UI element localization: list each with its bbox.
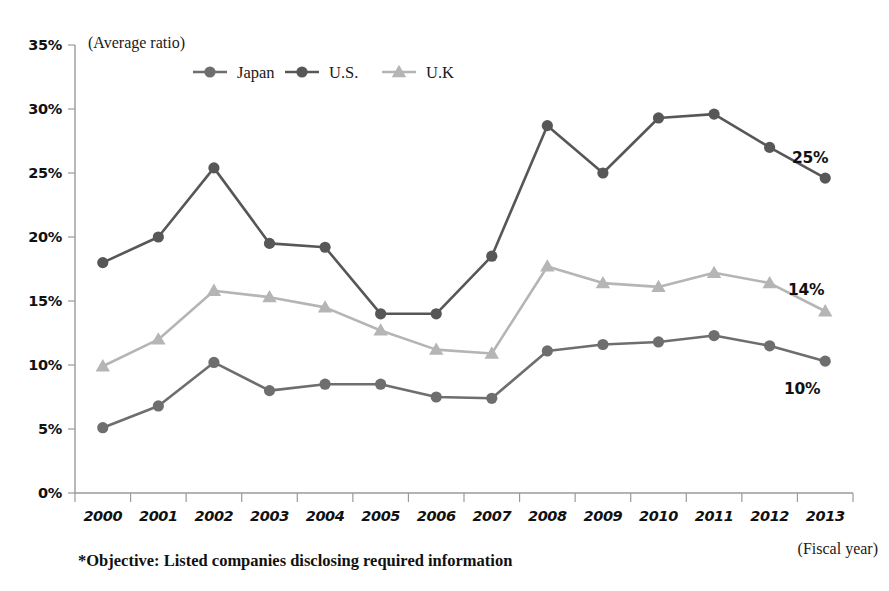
data-point-marker	[375, 379, 386, 390]
y-tick-label: 10%	[28, 357, 63, 373]
x-axis-ticks: 2000200120022003200420052006200720082009…	[75, 493, 853, 524]
data-point-marker	[431, 308, 442, 319]
x-tick-label: 2013	[806, 508, 845, 524]
data-point-marker	[653, 112, 664, 123]
data-point-marker	[264, 385, 275, 396]
end-value-label: 14%	[788, 281, 825, 299]
legend-entry-u-k[interactable]: U.K	[382, 63, 454, 82]
data-point-marker	[764, 142, 775, 153]
data-point-marker	[764, 340, 775, 351]
series-layer	[96, 109, 833, 434]
data-point-marker	[597, 339, 608, 350]
data-point-marker	[540, 259, 554, 271]
y-tick-label: 30%	[28, 101, 63, 117]
y-tick-label: 5%	[38, 421, 63, 437]
x-tick-label: 2011	[695, 508, 734, 524]
data-point-marker	[708, 330, 719, 341]
data-point-marker	[820, 173, 831, 184]
y-tick-label: 20%	[28, 229, 63, 245]
line-chart: 0%5%10%15%20%25%30%35% 20002001200220032…	[0, 0, 889, 591]
x-tick-label: 2012	[750, 508, 789, 524]
data-point-marker	[708, 109, 719, 120]
y-tick-label: 35%	[28, 37, 63, 53]
x-tick-label: 2000	[83, 508, 122, 524]
end-value-label: 25%	[792, 149, 829, 167]
chart-axes	[75, 45, 853, 493]
series-line	[103, 336, 825, 428]
legend-label: U.K	[426, 63, 454, 82]
y-tick-label: 15%	[28, 293, 63, 309]
x-tick-label: 2007	[472, 508, 512, 524]
chart-legend: JapanU.S.U.K	[193, 63, 454, 82]
x-tick-label: 2008	[528, 508, 567, 524]
data-point-marker	[208, 357, 219, 368]
data-point-marker	[486, 393, 497, 404]
data-point-marker	[486, 251, 497, 262]
data-point-marker	[653, 336, 664, 347]
data-point-marker	[597, 167, 608, 178]
circle-marker-icon	[204, 66, 215, 77]
data-point-marker	[97, 257, 108, 268]
circle-marker-icon	[296, 66, 307, 77]
end-value-label: 10%	[784, 380, 821, 398]
series-u-s	[97, 109, 831, 320]
data-point-marker	[207, 284, 221, 296]
x-axis-note: (Fiscal year)	[798, 540, 878, 558]
legend-label: Japan	[237, 63, 275, 82]
data-point-marker	[97, 422, 108, 433]
x-tick-label: 2005	[361, 508, 400, 524]
legend-label: U.S.	[329, 63, 358, 82]
y-tick-label: 0%	[38, 485, 63, 501]
series-japan	[97, 330, 831, 433]
x-tick-label: 2010	[639, 508, 678, 524]
series-u-k	[96, 259, 833, 371]
data-point-marker	[319, 242, 330, 253]
y-tick-label: 25%	[28, 165, 63, 181]
data-point-marker	[264, 238, 275, 249]
data-point-marker	[208, 162, 219, 173]
x-tick-label: 2003	[250, 508, 289, 524]
data-point-marker	[542, 120, 553, 131]
data-point-marker	[375, 308, 386, 319]
x-tick-label: 2001	[139, 508, 178, 524]
chart-container: 0%5%10%15%20%25%30%35% 20002001200220032…	[0, 0, 889, 591]
data-point-marker	[153, 400, 164, 411]
data-point-marker	[707, 266, 721, 278]
legend-entry-japan[interactable]: Japan	[193, 63, 275, 82]
data-point-marker	[818, 304, 832, 316]
x-tick-label: 2004	[306, 508, 345, 524]
y-axis-ticks: 0%5%10%15%20%25%30%35%	[28, 37, 75, 501]
x-tick-label: 2009	[584, 508, 623, 524]
data-point-marker	[319, 379, 330, 390]
y-axis-note: (Average ratio)	[88, 34, 185, 52]
legend-entry-u-s[interactable]: U.S.	[285, 63, 358, 82]
x-tick-label: 2006	[417, 508, 456, 524]
data-point-marker	[431, 391, 442, 402]
data-point-marker	[153, 231, 164, 242]
x-tick-label: 2002	[195, 508, 234, 524]
series-line	[103, 266, 825, 366]
data-point-marker	[820, 356, 831, 367]
footnote: *Objective: Listed companies disclosing …	[78, 551, 512, 570]
data-point-marker	[542, 345, 553, 356]
series-line	[103, 114, 825, 314]
